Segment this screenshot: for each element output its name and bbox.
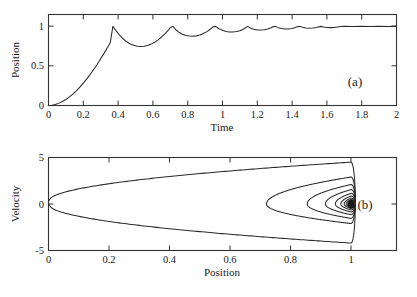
panel-a-xtick-4: 0.8 [181,109,194,120]
panel-a-ylabel: Position [9,41,21,78]
panel-b-fixed-point [348,199,354,208]
panel-a-x-ticks [49,15,397,106]
figure-container: 0 0.5 1 0 0.2 0.4 0.6 0.8 1 1.2 1.4 1.6 … [0,0,417,297]
panel-a-xtick-2: 0.4 [112,109,126,120]
panel-a: 0 0.5 1 0 0.2 0.4 0.6 0.8 1 1.2 1.4 1.6 … [9,15,399,134]
panel-a-xtick-9: 1.8 [355,109,368,120]
panel-a-ytick-0: 0 [39,100,44,111]
panel-b-xtick-2: 0.4 [163,254,177,265]
panel-a-xtick-6: 1.2 [251,109,264,120]
phase-loop-outer-launch [49,162,356,243]
panel-b-xtick-5: 1 [348,254,353,265]
panel-a-xtick-8: 1.6 [320,109,333,120]
panel-a-y-ticks [49,26,397,105]
panel-a-xtick-7: 1.4 [286,109,300,120]
panel-b-xtick-4: 0.8 [284,254,297,265]
panel-a-xtick-1: 0.2 [77,109,90,120]
panel-b-xtick-1: 0.2 [102,254,115,265]
panel-a-xtick-0: 0 [46,109,51,120]
panel-b-ytick-5: 5 [39,152,44,163]
panel-b-xlabel: Position [204,266,241,278]
panel-b-xtick-3: 0.6 [223,254,236,265]
panel-a-ytick-1: 0.5 [31,60,44,71]
panel-a-frame [49,15,397,106]
scientific-figure: 0 0.5 1 0 0.2 0.4 0.6 0.8 1 1.2 1.4 1.6 … [0,0,417,297]
panel-b-ytick-0: 0 [39,199,44,210]
panel-b-ytick-neg5: -5 [35,245,44,256]
panel-a-xlabel: Time [211,121,234,133]
panel-b-xtick-0: 0 [46,254,51,265]
panel-a-position-curve [49,26,397,105]
panel-a-label: (a) [348,74,362,89]
panel-b-x-ticks [49,158,352,251]
panel-b-ylabel: Velocity [9,185,21,222]
panel-b-label: (b) [357,197,372,212]
panel-a-ytick-2: 1 [39,21,44,32]
panel-a-xtick-5: 1 [220,109,225,120]
panel-b-phase-trajectory [49,162,356,243]
panel-a-xtick-10: 2 [394,109,399,120]
panel-a-xtick-3: 0.6 [146,109,159,120]
panel-b: 5 0 -5 0 0.2 0.4 0.6 0.8 1 Velocity Posi… [9,152,397,278]
